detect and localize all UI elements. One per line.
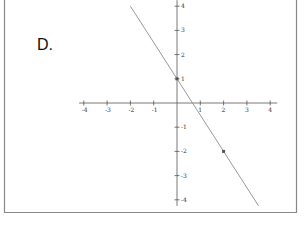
y-tick-label: -2 xyxy=(181,147,187,154)
data-point xyxy=(222,150,225,153)
x-tick-label: -2 xyxy=(128,106,134,113)
y-tick-label: -4 xyxy=(181,196,187,203)
x-tick-label: -4 xyxy=(82,106,88,113)
x-tick-label: 3 xyxy=(245,106,249,113)
x-tick-label: 1 xyxy=(198,106,202,113)
graph-line xyxy=(130,6,258,206)
y-tick-label: 1 xyxy=(181,75,185,82)
x-tick-label: 2 xyxy=(222,106,226,113)
y-tick-label: 2 xyxy=(181,51,185,58)
y-tick-label: 4 xyxy=(181,2,185,9)
x-tick-label: -3 xyxy=(105,106,111,113)
x-tick-label: -1 xyxy=(152,106,158,113)
y-tick-label: -3 xyxy=(181,172,187,179)
graph-panel: D. -4-3-2-112344321-1-2-3-4 xyxy=(0,0,308,225)
data-point xyxy=(176,77,179,80)
graph-border xyxy=(5,0,297,213)
y-tick-label: 3 xyxy=(181,26,185,33)
x-tick-label: 4 xyxy=(268,106,272,113)
coordinate-plane: -4-3-2-112344321-1-2-3-4 xyxy=(0,0,308,225)
y-tick-label: -1 xyxy=(181,123,187,130)
